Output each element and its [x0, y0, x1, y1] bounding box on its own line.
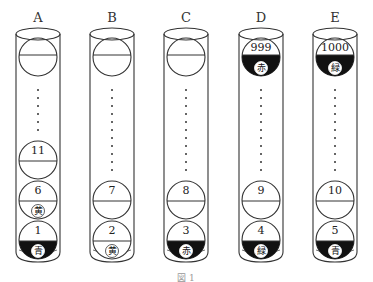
tube-label: C: [181, 10, 191, 25]
tube-label: E: [330, 10, 340, 25]
ball-color-label: 緑: [331, 62, 340, 73]
ball-number: 6: [35, 184, 42, 197]
ball-number: 7: [109, 184, 116, 197]
ball-number: 11: [31, 144, 45, 157]
ball-color-label: 青: [34, 245, 43, 256]
ball: [19, 38, 57, 76]
ellipsis-dots: [111, 89, 113, 171]
ball-number: 5: [332, 224, 339, 237]
tube-c: C83赤: [164, 10, 208, 262]
ball: 5青: [316, 221, 354, 262]
tube-e: E1000緑105青: [313, 10, 357, 262]
tube-a: A116黄1青: [16, 10, 60, 262]
ball: [167, 38, 205, 76]
ball: 1000緑: [316, 38, 354, 76]
ball: 9: [242, 181, 280, 219]
ball: 11: [19, 141, 57, 179]
tubes-diagram: A116黄1青B72黄C83赤D999赤94緑E1000緑105青図 1: [0, 0, 373, 282]
ellipsis-dots: [334, 89, 336, 171]
ball-color-label: 青: [331, 245, 340, 256]
ellipsis-dots: [260, 89, 262, 171]
ball-number: 1: [35, 224, 42, 237]
tube-b: B72黄: [90, 10, 134, 262]
ball-color-label: 緑: [257, 245, 266, 256]
ball: 6黄: [19, 181, 57, 219]
ball-number: 999: [251, 41, 272, 54]
ball: 7: [93, 181, 131, 219]
ball-outline: [93, 38, 131, 76]
ball-color-label: 黄: [108, 245, 117, 256]
ball-color-label: 黄: [34, 205, 43, 216]
ball-number: 2: [109, 224, 116, 237]
ball: [93, 38, 131, 76]
ball: 999赤: [242, 38, 280, 76]
ball-outline: [167, 38, 205, 76]
ball: 4緑: [242, 221, 280, 262]
ellipsis-dots: [37, 89, 39, 131]
ball: 8: [167, 181, 205, 219]
ball-color-label: 赤: [182, 246, 191, 256]
figure-caption: 図 1: [177, 273, 195, 282]
ellipsis-dots: [185, 89, 187, 171]
ball-number: 4: [258, 224, 265, 237]
tube-label: A: [32, 10, 43, 25]
ball-number: 8: [183, 184, 190, 197]
ball-color-label: 赤: [257, 63, 266, 73]
ball-number: 3: [183, 224, 190, 237]
ball: 10: [316, 181, 354, 219]
ball-number: 1000: [321, 41, 349, 54]
ball-outline: [19, 38, 57, 76]
ball-number: 9: [258, 184, 265, 197]
ball: 2黄: [93, 221, 131, 259]
tube-d: D999赤94緑: [239, 10, 283, 262]
tube-label: D: [256, 10, 266, 25]
ball: 3赤: [167, 221, 205, 262]
tube-label: B: [107, 10, 117, 25]
ball: 1青: [19, 221, 57, 262]
ball-number: 10: [328, 184, 342, 197]
